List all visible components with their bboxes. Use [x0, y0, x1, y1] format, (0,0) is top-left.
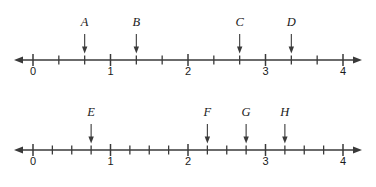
pointer-arrowhead: [205, 137, 210, 144]
point-label-c: C: [235, 15, 244, 29]
pointer-arrowhead: [289, 47, 294, 54]
axis-tick-label: 4: [340, 155, 346, 167]
pointer-arrowhead: [134, 47, 139, 54]
point-marker-a: A: [80, 15, 89, 54]
point-marker-h: H: [279, 105, 290, 144]
point-label-h: H: [279, 105, 290, 119]
axis-tick-label: 3: [262, 65, 268, 77]
point-label-g: G: [242, 105, 251, 119]
point-label-f: F: [203, 105, 212, 119]
line-2: 01234EFGH: [14, 105, 362, 167]
point-marker-f: F: [203, 105, 212, 144]
axis-left-arrowhead: [14, 147, 23, 154]
point-marker-c: C: [235, 15, 244, 54]
axis-right-arrowhead: [353, 147, 362, 154]
pointer-arrowhead: [88, 137, 93, 144]
pointer-arrowhead: [237, 47, 242, 54]
axis-tick-label: 0: [30, 65, 36, 77]
axis-tick-label: 4: [340, 65, 346, 77]
axis-right-arrowhead: [353, 57, 362, 64]
axis-tick-label: 0: [30, 155, 36, 167]
pointer-arrowhead: [282, 137, 287, 144]
axis-tick-label: 2: [185, 155, 191, 167]
axis-tick-label: 3: [262, 155, 268, 167]
point-label-e: E: [86, 105, 95, 119]
line-1: 01234ABCD: [14, 15, 362, 77]
axis-left-arrowhead: [14, 57, 23, 64]
pointer-arrowhead: [243, 137, 248, 144]
axis-tick-label: 1: [107, 155, 113, 167]
point-label-b: B: [133, 15, 141, 29]
axis-tick-label: 1: [107, 65, 113, 77]
point-marker-g: G: [242, 105, 251, 144]
point-marker-d: D: [286, 15, 296, 54]
point-label-d: D: [286, 15, 296, 29]
pointer-arrowhead: [82, 47, 87, 54]
number-lines-figure: 01234ABCD01234EFGH: [0, 0, 376, 187]
axis-tick-label: 2: [185, 65, 191, 77]
point-marker-e: E: [86, 105, 95, 144]
point-label-a: A: [80, 15, 89, 29]
number-lines-canvas: 01234ABCD01234EFGH: [0, 0, 376, 187]
point-marker-b: B: [133, 15, 141, 54]
